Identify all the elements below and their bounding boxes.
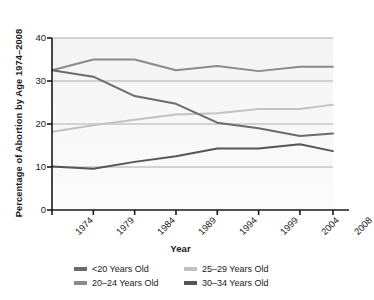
chart-legend: <20 Years Old25–29 Years Old20–24 Years … (74, 262, 294, 290)
legend-item[interactable]: 20–24 Years Old (74, 279, 184, 288)
legend-label: 25–29 Years Old (202, 265, 269, 274)
legend-label: 20–24 Years Old (92, 279, 159, 288)
legend-swatch (74, 267, 87, 271)
legend-label: 30–34 Years Old (202, 279, 269, 288)
legend-swatch (184, 281, 197, 285)
legend-item[interactable]: 30–34 Years Old (184, 279, 294, 288)
legend-swatch (184, 267, 197, 271)
legend-swatch (74, 281, 87, 285)
legend-label: <20 Years Old (92, 265, 149, 274)
legend-item[interactable]: 25–29 Years Old (184, 265, 294, 274)
legend-item[interactable]: <20 Years Old (74, 265, 184, 274)
